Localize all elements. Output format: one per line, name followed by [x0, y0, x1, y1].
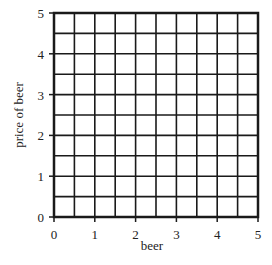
- grid-lines: [54, 13, 258, 217]
- empty-grid-chart: 012345 012345 beer price of beer: [0, 0, 272, 265]
- y-tick-label: 1: [38, 169, 45, 184]
- y-tick-label: 5: [38, 6, 45, 21]
- x-axis-label: beer: [141, 238, 164, 253]
- y-tick-label: 2: [38, 128, 45, 143]
- x-tick-label: 5: [255, 227, 262, 242]
- y-tick-label: 4: [38, 47, 45, 62]
- y-tick-label: 0: [38, 210, 45, 225]
- x-tick-label: 1: [92, 227, 99, 242]
- y-axis-label: price of beer: [11, 81, 26, 147]
- x-tick-label: 0: [51, 227, 58, 242]
- y-tick-label: 3: [38, 88, 45, 103]
- y-axis-ticks: 012345: [38, 6, 55, 225]
- plot-area: 012345 012345 beer price of beer: [0, 0, 272, 265]
- x-tick-label: 4: [214, 227, 221, 242]
- x-tick-label: 2: [132, 227, 139, 242]
- x-tick-label: 3: [173, 227, 180, 242]
